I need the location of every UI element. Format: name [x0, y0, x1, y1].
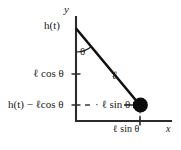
horizontal-component-axis-label: ℓ sin θ — [113, 124, 139, 134]
bob-height-label: h(t) − ℓcos θ — [8, 99, 64, 110]
x-axis-label: x — [166, 124, 170, 134]
diagram-canvas — [0, 0, 181, 150]
y-axis-label: y — [64, 4, 69, 15]
vertical-component-label: ℓ cos θ — [33, 68, 64, 79]
pivot-height-label: h(t) — [44, 20, 60, 31]
pendulum-bob-icon — [133, 98, 148, 113]
pendulum-diagram: y x h(t) θ ℓ ℓ cos θ h(t) − ℓcos θ · ℓ s… — [0, 0, 181, 150]
horizontal-component-inner-label: · ℓ sin θ — [95, 99, 130, 110]
pendulum-rod — [77, 29, 140, 104]
angle-label: θ — [80, 46, 85, 57]
rod-length-label: ℓ — [112, 70, 117, 81]
